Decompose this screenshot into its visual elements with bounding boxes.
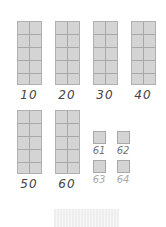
ten-rod bbox=[17, 110, 42, 174]
rod-label: 30 bbox=[90, 88, 120, 102]
rod-label: 20 bbox=[52, 88, 82, 102]
rod-label: 60 bbox=[52, 177, 82, 191]
unit-label: 63 bbox=[89, 174, 109, 185]
unit-label: 61 bbox=[89, 145, 109, 156]
rod-label: 40 bbox=[128, 88, 158, 102]
unit-cube bbox=[93, 131, 106, 144]
ten-rod bbox=[55, 110, 80, 174]
rod-label: 10 bbox=[14, 88, 44, 102]
rod-label: 50 bbox=[14, 177, 44, 191]
faded-bar bbox=[54, 209, 119, 227]
ten-rod bbox=[93, 21, 118, 85]
unit-cube bbox=[93, 160, 106, 173]
unit-label: 64 bbox=[113, 174, 133, 185]
ten-rod bbox=[55, 21, 80, 85]
unit-label: 62 bbox=[113, 145, 133, 156]
unit-cube bbox=[117, 160, 130, 173]
ten-rod bbox=[17, 21, 42, 85]
ten-rod bbox=[131, 21, 156, 85]
unit-cube bbox=[117, 131, 130, 144]
